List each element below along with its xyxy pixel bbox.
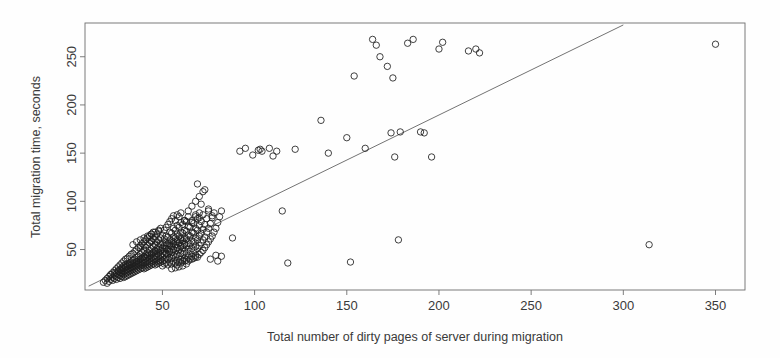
data-point: [200, 188, 206, 194]
x-tick-label: 300: [612, 298, 634, 313]
data-point: [229, 235, 235, 241]
data-point: [242, 145, 248, 151]
data-point: [218, 208, 224, 214]
data-point: [266, 145, 272, 151]
data-point: [279, 208, 285, 214]
data-point: [351, 73, 357, 79]
scatter-plot-figure: 50100150200250300350 50100150200250 Tota…: [0, 0, 780, 358]
data-point: [428, 154, 434, 160]
x-axis-ticks: 50100150200250300350: [155, 290, 726, 313]
data-point: [395, 237, 401, 243]
x-tick-label: 150: [336, 298, 358, 313]
data-point: [178, 210, 184, 216]
data-point: [377, 54, 383, 60]
data-point: [712, 41, 718, 47]
scatter-points: [100, 36, 718, 286]
y-tick-label: 150: [64, 142, 79, 164]
x-tick-label: 50: [155, 298, 169, 313]
y-tick-label: 50: [64, 242, 79, 256]
y-tick-label: 100: [64, 190, 79, 212]
x-tick-label: 250: [520, 298, 542, 313]
data-point: [373, 42, 379, 48]
y-axis-ticks: 50100150200250: [64, 46, 85, 257]
data-point: [141, 242, 147, 248]
data-point: [410, 36, 416, 42]
x-tick-label: 100: [244, 298, 266, 313]
y-tick-label: 200: [64, 94, 79, 116]
data-point: [141, 235, 147, 241]
data-point: [384, 63, 390, 69]
data-point: [250, 152, 256, 158]
data-point: [285, 260, 291, 266]
data-point: [211, 229, 217, 235]
data-point: [439, 39, 445, 45]
data-point: [476, 50, 482, 56]
data-point: [257, 146, 263, 152]
data-point: [202, 187, 208, 193]
data-point: [274, 148, 280, 154]
data-point: [646, 242, 652, 248]
data-point: [259, 148, 265, 154]
x-axis-title: Total number of dirty pages of server du…: [267, 330, 563, 344]
plot-frame: [85, 23, 745, 290]
data-point: [369, 36, 375, 42]
data-point: [174, 212, 180, 218]
data-point: [436, 46, 442, 52]
y-axis-title: Total migration time, seconds: [29, 76, 43, 238]
data-point: [325, 150, 331, 156]
data-point: [392, 154, 398, 160]
data-point: [347, 259, 353, 265]
data-point: [344, 135, 350, 141]
data-point: [318, 117, 324, 123]
data-point: [473, 46, 479, 52]
data-point: [181, 217, 187, 223]
data-point: [194, 181, 200, 187]
x-tick-label: 350: [705, 298, 727, 313]
plot-canvas: 50100150200250300350 50100150200250 Tota…: [0, 0, 780, 358]
y-tick-label: 250: [64, 46, 79, 68]
data-point: [421, 130, 427, 136]
data-point: [362, 145, 368, 151]
data-point: [207, 256, 213, 262]
data-point: [404, 40, 410, 46]
data-point: [292, 146, 298, 152]
data-point: [465, 48, 471, 54]
data-point: [388, 130, 394, 136]
data-point: [390, 75, 396, 81]
x-tick-label: 200: [428, 298, 450, 313]
data-point: [198, 201, 204, 207]
